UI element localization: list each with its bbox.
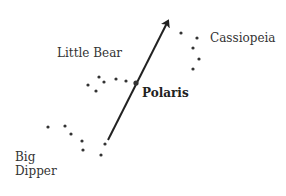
polaris-label: Polaris [142, 87, 189, 100]
big-dipper-stars [46, 124, 106, 156]
big-dipper-label-line2: Dipper [15, 165, 57, 178]
little-bear-label: Little Bear [57, 47, 122, 60]
little-bear-stars [86, 75, 127, 92]
cassiopeia-stars [179, 31, 200, 70]
direction-arrow [108, 21, 168, 140]
big-dipper-label-line1: Big [15, 151, 35, 164]
cassiopeia-label: Cassiopeia [210, 32, 276, 45]
polaris-star [133, 80, 138, 85]
